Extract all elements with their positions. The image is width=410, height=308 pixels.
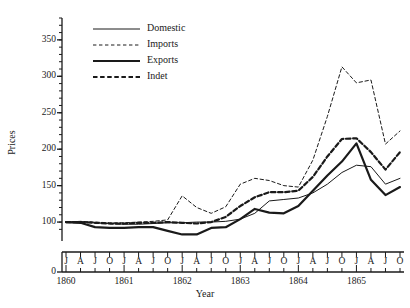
x-year-label: 1861 — [104, 276, 144, 286]
y-tick-label: 200 — [22, 143, 56, 153]
y-axis-title: Prices — [6, 113, 17, 173]
series-line-imports — [66, 67, 400, 223]
chart-series-layer — [66, 67, 400, 235]
legend-label-imports: Imports — [147, 38, 178, 49]
y-tick-label: 350 — [22, 34, 56, 44]
legend-label-domestic: Domestic — [147, 22, 185, 33]
x-year-label: 1860 — [46, 276, 86, 286]
y-tick-label: 300 — [22, 70, 56, 80]
y-tick-label: 250 — [22, 107, 56, 117]
chart-axes — [57, 18, 404, 272]
y-tick-label: 150 — [22, 180, 56, 190]
chart-figure: Prices Year 1001502002503003500 JAJOJAJO… — [0, 0, 410, 308]
legend-label-exports: Exports — [147, 54, 178, 65]
x-axis-title: Year — [185, 288, 225, 299]
x-year-label: 1864 — [278, 276, 318, 286]
x-year-label: 1862 — [162, 276, 202, 286]
x-month-label: O — [392, 256, 408, 266]
y-tick-label: 100 — [22, 216, 56, 226]
y-tick-label-zero: 0 — [22, 266, 56, 276]
x-year-label: 1865 — [336, 276, 376, 286]
series-line-exports — [66, 143, 400, 234]
legend-sample-lines — [93, 29, 140, 77]
x-year-label: 1863 — [220, 276, 260, 286]
legend-label-indet: Indet — [147, 70, 168, 81]
